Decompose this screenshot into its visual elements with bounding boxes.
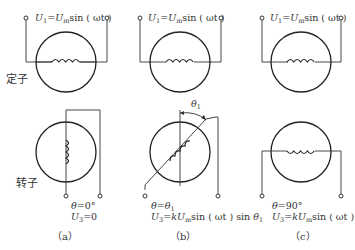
symbol: U xyxy=(270,12,278,23)
terminal xyxy=(24,16,28,20)
symbol: U xyxy=(177,211,185,222)
symbol: = xyxy=(157,200,165,211)
symbol: U xyxy=(272,211,280,222)
symbol: U xyxy=(298,211,306,222)
symbol: U xyxy=(55,12,63,23)
symbol: = xyxy=(47,12,55,23)
theta-line-c: θ=90° xyxy=(272,201,303,211)
output-line-a: U3=0 xyxy=(71,212,97,224)
panel-b xyxy=(138,16,223,198)
stator-voltage-b: U1=Umsin ( ωt ) xyxy=(148,13,224,25)
terminal xyxy=(216,194,220,198)
symbol: U xyxy=(168,12,176,23)
stator-coil-icon xyxy=(52,60,79,63)
symbol: = xyxy=(160,12,168,23)
symbol: U xyxy=(148,12,156,23)
output-line-c: U3=kUmsin ( ωt ) xyxy=(272,212,354,224)
symbol: U xyxy=(35,12,43,23)
expression: =90° xyxy=(278,200,303,211)
rotor-coil-icon xyxy=(287,151,314,154)
terminal xyxy=(64,194,68,198)
arrow-icon xyxy=(180,111,184,115)
symbol: U xyxy=(290,12,298,23)
expression: =0 xyxy=(83,211,97,222)
stator-b xyxy=(138,16,223,92)
terminal xyxy=(260,16,264,20)
rotor-b xyxy=(143,110,220,198)
subscript: 1 xyxy=(197,103,201,111)
stator-voltage-c: U1=Umsin ( ωt ) xyxy=(270,13,346,25)
rotor-c xyxy=(260,122,343,198)
expression: =0° xyxy=(77,200,96,211)
panel-a xyxy=(24,16,109,198)
output-line-b: U3=kUmsin ( ωt ) sin θ1 xyxy=(151,212,263,224)
symbol: = xyxy=(282,12,290,23)
stator-voltage-a: U1=Umsin ( ωt ) xyxy=(35,13,111,25)
caption-b: （b） xyxy=(170,232,196,242)
terminal xyxy=(260,194,264,198)
theta-line-a: θ=0° xyxy=(71,201,96,211)
expression: sin ( ωt ) xyxy=(182,12,224,23)
symbol: = xyxy=(284,211,292,222)
rotor-a xyxy=(36,110,102,198)
angle-label-b: θ1 xyxy=(191,99,201,111)
expression: sin ( ωt ) sin xyxy=(191,211,253,222)
symbol: U xyxy=(71,211,79,222)
stator-coil-icon xyxy=(287,60,314,63)
terminal xyxy=(143,194,147,198)
terminal xyxy=(98,194,102,198)
rotor-label: 转子 xyxy=(16,178,38,189)
stator-c xyxy=(260,16,343,92)
expression: sin ( ωt ) xyxy=(69,12,111,23)
symbol: U xyxy=(151,211,159,222)
arrow-icon xyxy=(201,115,206,120)
stator-a xyxy=(24,16,109,92)
expression: sin ( ωt ) xyxy=(312,211,354,222)
caption-c: （c） xyxy=(290,232,316,242)
caption-a: （a） xyxy=(52,232,78,242)
stator-label: 定子 xyxy=(6,74,28,85)
subscript: 1 xyxy=(259,216,263,224)
terminal xyxy=(339,194,343,198)
stator-coil-icon xyxy=(166,60,193,63)
panel-c xyxy=(260,16,343,198)
expression: sin ( ωt ) xyxy=(304,12,346,23)
symbol: = xyxy=(163,211,171,222)
terminal xyxy=(138,16,142,20)
